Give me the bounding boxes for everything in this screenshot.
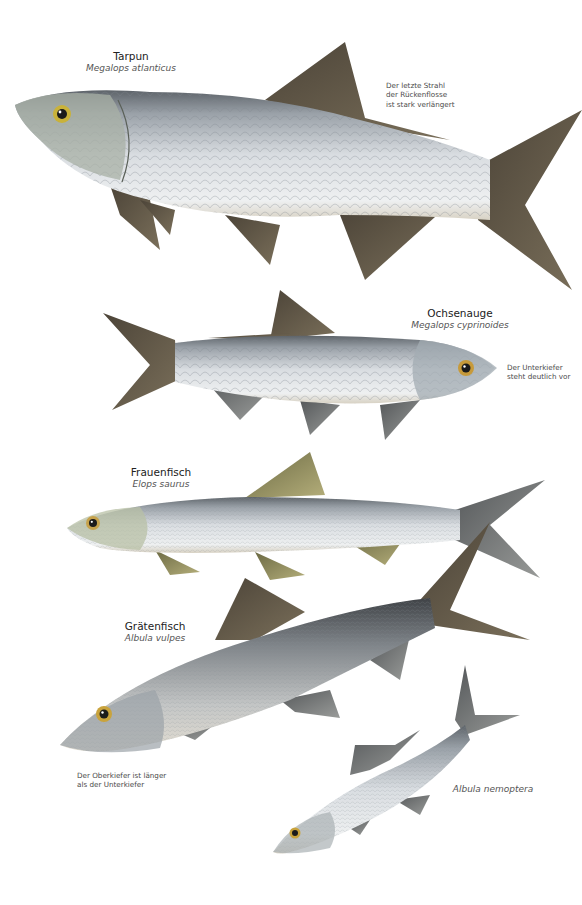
- annotation-line: Der Oberkiefer ist länger: [77, 771, 166, 780]
- ochsenauge-label: Ochsenauge Megalops cyprinoides: [400, 307, 520, 330]
- common-name: Frauenfisch: [106, 466, 216, 479]
- latin-name: Albula nemoptera: [448, 784, 538, 795]
- common-name: Ochsenauge: [400, 307, 520, 320]
- albula-nemoptera-label: Albula nemoptera: [448, 784, 538, 795]
- latin-name: Megalops atlanticus: [76, 63, 186, 74]
- latin-name: Albula vulpes: [100, 633, 210, 644]
- annotation-line: Der letzte Strahl: [386, 81, 455, 90]
- frauenfisch-label: Frauenfisch Elops saurus: [106, 466, 216, 489]
- fish-identification-plate: Tarpun Megalops atlanticus Der letzte St…: [0, 0, 582, 905]
- latin-name: Elops saurus: [106, 479, 216, 490]
- annotation-line: ist stark verlängert: [386, 100, 455, 109]
- annotation-line: steht deutlich vor: [507, 372, 570, 381]
- common-name: Grätenfisch: [100, 620, 210, 633]
- ochsenauge-annotation: Der Unterkiefer steht deutlich vor: [507, 363, 570, 382]
- graetenfisch-annotation: Der Oberkiefer ist länger als der Unterk…: [77, 771, 166, 790]
- graetenfisch-label: Grätenfisch Albula vulpes: [100, 620, 210, 643]
- tarpun-annotation: Der letzte Strahl der Rückenflosse ist s…: [386, 81, 455, 109]
- tarpun-illustration: [15, 42, 582, 290]
- annotation-line: Der Unterkiefer: [507, 363, 570, 372]
- annotation-line: der Rückenflosse: [386, 90, 455, 99]
- common-name: Tarpun: [76, 50, 186, 63]
- albula-nemoptera-illustration: [273, 665, 520, 854]
- fish-illustrations: [0, 0, 582, 905]
- annotation-line: als der Unterkiefer: [77, 780, 166, 789]
- latin-name: Megalops cyprinoides: [400, 320, 520, 331]
- tarpun-label: Tarpun Megalops atlanticus: [76, 50, 186, 73]
